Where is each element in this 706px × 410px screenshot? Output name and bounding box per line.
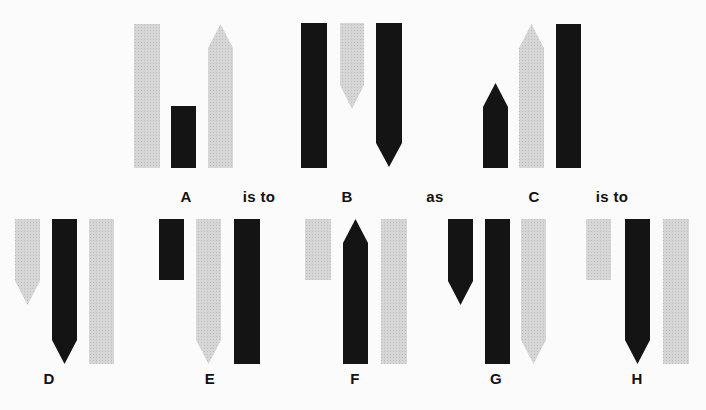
dark-bar-shape — [159, 219, 184, 280]
option-label-f[interactable]: F — [350, 370, 359, 387]
dark-arrow-down-shape — [448, 219, 473, 305]
light-bar-shape — [381, 219, 407, 364]
light-bar-shape — [305, 219, 331, 280]
panel-a — [134, 24, 233, 168]
option-label-g[interactable]: G — [490, 370, 502, 387]
connector-as: as — [426, 188, 443, 205]
panel-label-c: C — [528, 188, 539, 205]
dark-arrow-up-shape — [343, 219, 368, 364]
panel-c — [483, 24, 581, 168]
connector-is-to-2: is to — [596, 188, 628, 205]
light-arrow-down-shape — [521, 219, 546, 364]
option-label-d[interactable]: D — [43, 370, 54, 387]
dark-bar-shape — [171, 106, 196, 168]
panel-b — [301, 23, 402, 168]
dark-arrow-up-shape — [483, 83, 508, 168]
light-arrow-down-shape — [196, 219, 221, 364]
dark-arrow-down-shape — [52, 219, 77, 364]
option-panel-d[interactable] — [15, 219, 114, 364]
dark-bar-shape — [301, 23, 327, 168]
dark-bar-shape — [556, 24, 581, 168]
option-panel-h[interactable] — [586, 219, 689, 364]
option-panel-g[interactable] — [448, 219, 546, 364]
connector-is-to-1: is to — [243, 188, 275, 205]
analogy-figure: A is to B as C is to D E F G H — [0, 0, 706, 410]
light-arrow-down-shape — [340, 23, 364, 109]
option-panel-e[interactable] — [159, 219, 260, 364]
light-bar-shape — [89, 219, 114, 364]
option-label-h[interactable]: H — [631, 370, 642, 387]
light-bar-shape — [134, 24, 160, 168]
dark-arrow-down-shape — [625, 219, 650, 364]
dark-bar-shape — [485, 219, 510, 364]
dark-bar-shape — [234, 219, 260, 364]
option-panel-f[interactable] — [305, 219, 407, 364]
option-label-e[interactable]: E — [205, 370, 215, 387]
panel-label-b: B — [341, 188, 352, 205]
light-bar-shape — [663, 219, 689, 364]
light-arrow-down-shape — [15, 219, 40, 305]
light-bar-shape — [586, 219, 611, 280]
bars-canvas — [0, 0, 706, 410]
light-arrow-up-shape — [208, 24, 233, 168]
light-arrow-up-shape — [519, 24, 544, 168]
panel-label-a: A — [180, 188, 191, 205]
dark-arrow-down-shape — [376, 23, 402, 167]
